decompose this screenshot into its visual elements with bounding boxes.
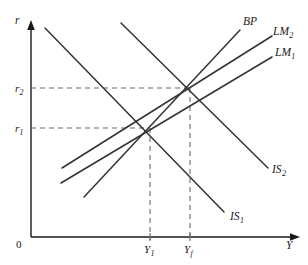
curve-label-bp-base: BP [243,15,257,27]
y-tick-label-r2: r2 [15,83,23,94]
x-tick-label-yf: Yf [184,244,192,255]
curve-label-is1: IS1 [230,211,244,223]
x-tick-label-y1-subscript: 1 [150,249,154,258]
plot-canvas [0,0,308,265]
curve-label-is2: IS2 [272,164,286,176]
curve-label-lm2-subscript: 2 [289,31,293,40]
curve-label-lm2-base: LM [273,25,289,37]
curve-label-lm1-subscript: 1 [291,52,295,61]
x-tick-label-yf-subscript: f [190,249,192,258]
y-axis-label: r [15,15,19,27]
curve-label-lm1: LM1 [275,47,295,59]
curve-label-is2-subscript: 2 [282,169,286,178]
curve-bp [84,30,240,197]
curve-label-bp: BP [243,16,257,28]
y-axis-arrow-icon [27,20,35,30]
y-tick-label-r2-base: r [15,82,19,94]
x-tick-label-y1: Y1 [144,244,154,255]
is-lm-bp-diagram: r Y 0 r2 r1 Y1 Yf BP LM2 LM1 IS2 IS1 [0,0,308,265]
y-tick-label-r1: r1 [15,123,23,134]
curve-is1 [45,28,224,212]
y-tick-label-r1-base: r [15,122,19,134]
y-tick-label-r1-subscript: 1 [20,128,24,137]
x-axis-label: Y [286,240,292,252]
origin-label: 0 [16,239,22,250]
curve-label-is1-base: IS [230,210,240,222]
curve-lm2 [62,36,272,168]
curve-label-is2-base: IS [272,163,282,175]
curve-lm1 [61,57,272,183]
curve-label-lm1-base: LM [275,46,291,58]
curve-label-lm2: LM2 [273,26,293,38]
curve-is2 [121,23,268,168]
curve-label-is1-subscript: 1 [240,216,244,225]
y-tick-label-r2-subscript: 2 [20,88,24,97]
